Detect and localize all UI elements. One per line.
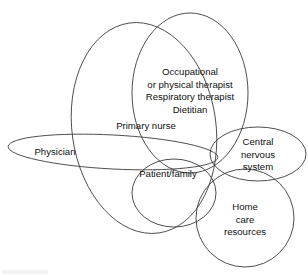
central-nervous-system-label: Centralnervoussystem — [241, 136, 275, 172]
label-line: Primary nurse — [116, 120, 176, 131]
label-line: Patient/family — [139, 168, 197, 179]
label-group: Occupationalor physical therapistRespira… — [34, 66, 275, 237]
label-line: nervous — [241, 148, 275, 159]
label-line: Dietitian — [173, 103, 208, 114]
label-line: Respiratory therapist — [146, 91, 235, 102]
physician-label: Physician — [34, 146, 75, 157]
venn-diagram: Occupationalor physical therapistRespira… — [0, 0, 308, 275]
label-line: system — [243, 161, 273, 172]
diagram-canvas: Occupationalor physical therapistRespira… — [0, 0, 308, 275]
label-line: or physical therapist — [147, 78, 233, 89]
label-line: Physician — [34, 146, 75, 157]
patient-family-label: Patient/family — [139, 168, 197, 179]
page-corner-artifact — [2, 270, 48, 274]
label-line: Home — [232, 201, 258, 212]
home-care-resources-label: Homecareresources — [224, 201, 266, 237]
label-line: care — [236, 213, 255, 224]
therapists-label: Occupationalor physical therapistRespira… — [146, 66, 235, 115]
primary-nurse-label: Primary nurse — [116, 120, 176, 131]
label-line: Occupational — [162, 66, 218, 77]
label-line: Central — [243, 136, 274, 147]
label-line: resources — [224, 226, 266, 237]
